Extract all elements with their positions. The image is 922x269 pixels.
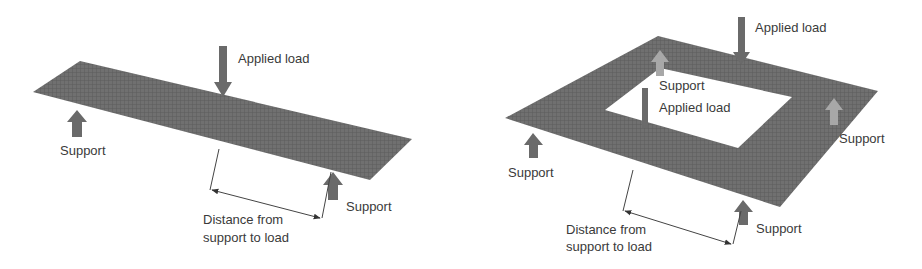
right-panel-two-way-frame: Applied load Support Applied load Suppor… [505, 17, 885, 254]
distance-label-line2: support to load [203, 230, 289, 245]
left-panel-one-way-slab: Applied load Support Support Distance fr… [33, 46, 412, 245]
structural-load-diagram: Applied load Support Support Distance fr… [0, 0, 922, 269]
support-arrow-bottom-icon [734, 200, 753, 225]
applied-load-arrow-inner-icon [642, 88, 648, 128]
support-inner-label: Support [659, 78, 705, 93]
applied-load-arrow-icon [214, 46, 232, 97]
applied-load-inner-label: Applied load [659, 100, 731, 115]
support-left-label: Support [60, 143, 106, 158]
support-right-label: Support [839, 131, 885, 146]
distance-label-line1: Distance from [566, 222, 646, 237]
support-arrow-left-icon [524, 133, 543, 158]
distance-label-line2: support to load [566, 239, 652, 254]
applied-load-top-label: Applied load [755, 20, 827, 35]
frame-plate [505, 36, 878, 207]
distance-label-line1: Distance from [203, 212, 283, 227]
support-right-label: Support [346, 199, 392, 214]
support-arrow-left-icon [67, 110, 87, 137]
support-left-label: Support [508, 165, 554, 180]
support-bottom-label: Support [756, 221, 802, 236]
applied-load-label: Applied load [238, 51, 310, 66]
